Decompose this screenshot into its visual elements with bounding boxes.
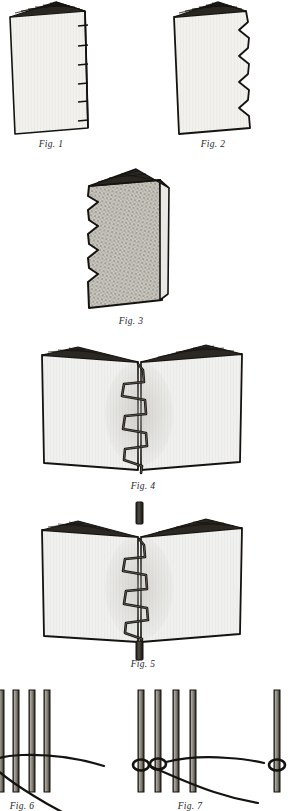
cords — [0, 690, 50, 792]
figure-6 — [0, 688, 122, 811]
caption-fig-3: Fig. 3 — [98, 316, 164, 326]
caption-fig-2: Fig. 2 — [180, 139, 246, 149]
figure-1 — [4, 0, 104, 140]
plate-page: Fig. 1 Fig. 2 — [0, 0, 289, 811]
cord-bottom — [136, 641, 143, 660]
cord-top — [136, 502, 143, 524]
figure-7 — [128, 688, 263, 811]
figure-4 — [38, 340, 250, 482]
caption-fig-5: Fig. 5 — [110, 659, 176, 669]
figure-5 — [38, 500, 250, 662]
cords — [138, 690, 196, 792]
caption-fig-7: Fig. 7 — [170, 801, 210, 811]
cord — [274, 690, 280, 792]
caption-fig-1: Fig. 1 — [18, 139, 84, 149]
caption-fig-4: Fig. 4 — [110, 481, 176, 491]
figure-8-partial — [268, 688, 289, 811]
figure-2 — [168, 0, 272, 140]
figure-3 — [76, 166, 184, 316]
caption-fig-6: Fig. 6 — [2, 801, 42, 811]
